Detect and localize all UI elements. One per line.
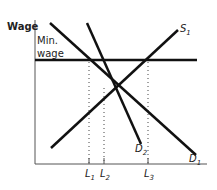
y-axis-label: Wage bbox=[7, 21, 39, 32]
demand-curve-d1 bbox=[50, 23, 196, 155]
demand1-label: D1 bbox=[189, 153, 201, 167]
tick-label-l3: L3 bbox=[144, 168, 154, 182]
tick-label-l2: L2 bbox=[100, 168, 111, 182]
min-wage-label-line2: wage bbox=[37, 48, 64, 59]
supply-curve-s1 bbox=[51, 30, 178, 148]
demand2-label: D2 bbox=[135, 143, 148, 157]
demand-curve-d2 bbox=[87, 23, 141, 144]
tick-label-l1: L1 bbox=[85, 168, 95, 182]
labor-market-diagram: Wage Min. wage S1 D1 D2 L1 L2 L3 bbox=[0, 0, 217, 190]
supply-label: S1 bbox=[180, 23, 191, 37]
min-wage-label-line1: Min. bbox=[37, 35, 58, 46]
